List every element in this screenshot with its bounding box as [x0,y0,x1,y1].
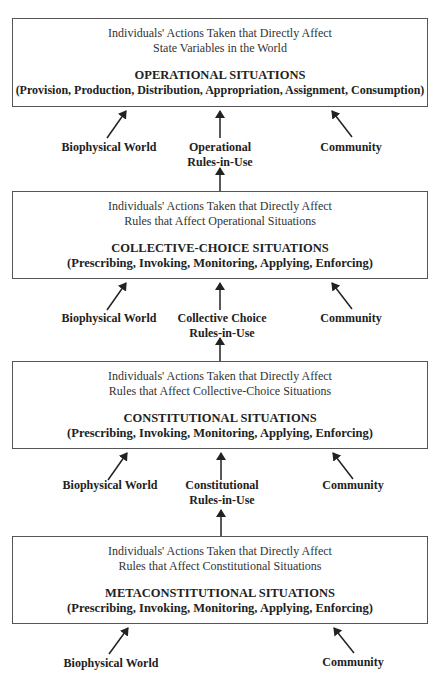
metaconstitutional-situations-box: Individuals' Actions Taken that Directly… [12,536,428,624]
box-title: CONSTITUTIONAL SITUATIONS [13,411,427,426]
community-label: Community [320,140,381,155]
community-arrow-icon [334,628,354,653]
community-arrow-icon [332,283,352,309]
biophysical-world-label: Biophysical World [62,140,157,155]
arrow-group-4 [109,628,354,654]
community-label: Community [322,655,383,670]
box-title: COLLECTIVE-CHOICE SITUATIONS [13,241,427,256]
biophysical-arrow-icon [108,453,127,480]
biophysical-arrow-icon [107,283,126,310]
rules-in-use-label: Constitutional Rules-in-Use [185,478,258,508]
community-label: Community [320,311,381,326]
community-label: Community [322,478,383,493]
collective-choice-situations-box: Individuals' Actions Taken that Directly… [12,191,428,279]
box-activities: (Provision, Production, Distribution, Ap… [13,83,427,98]
box-activities: (Prescribing, Invoking, Monitoring, Appl… [13,601,427,616]
biophysical-world-label: Biophysical World [64,656,159,671]
biophysical-arrow-icon [107,111,126,138]
constitutional-situations-box: Individuals' Actions Taken that Directly… [12,361,428,449]
box-title: OPERATIONAL SITUATIONS [13,68,427,83]
box-title: METACONSTITUTIONAL SITUATIONS [13,586,427,601]
box-description: Individuals' Actions Taken that Directly… [13,544,427,574]
box-description: Individuals' Actions Taken that Directly… [13,26,427,56]
biophysical-world-label: Biophysical World [63,478,158,493]
rules-in-use-label: Collective Choice Rules-in-Use [178,311,267,341]
community-arrow-icon [333,453,353,479]
biophysical-arrow-icon [109,628,128,654]
box-description: Individuals' Actions Taken that Directly… [13,369,427,399]
operational-situations-box: Individuals' Actions Taken that Directly… [12,18,428,107]
box-activities: (Prescribing, Invoking, Monitoring, Appl… [13,426,427,441]
biophysical-world-label: Biophysical World [62,311,157,326]
box-activities: (Prescribing, Invoking, Monitoring, Appl… [13,256,427,271]
box-description: Individuals' Actions Taken that Directly… [13,199,427,229]
rules-in-use-label: Operational Rules-in-Use [187,140,252,170]
community-arrow-icon [332,111,352,137]
